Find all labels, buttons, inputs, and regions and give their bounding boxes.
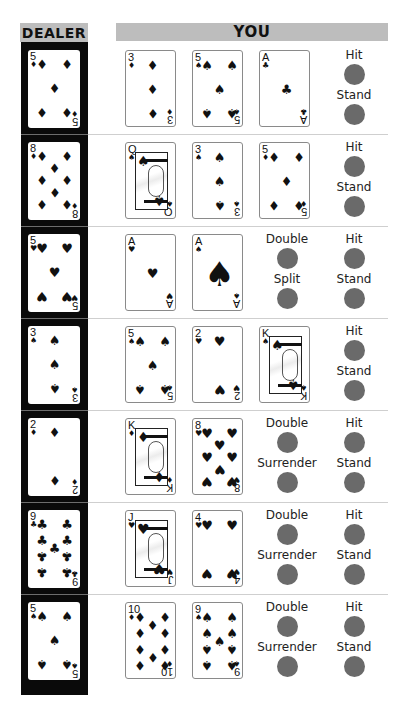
spades-icon: ♠	[159, 335, 172, 348]
row-divider	[21, 318, 388, 319]
hearts-icon: ♥	[48, 266, 61, 279]
surrender-button[interactable]	[277, 564, 298, 585]
player-card: 5♠5♠♠♠♠♠♠	[125, 326, 176, 403]
surrender-button[interactable]	[277, 472, 298, 493]
row-divider-dealer	[21, 318, 88, 319]
double-button[interactable]	[277, 248, 298, 269]
spades-icon: ♠	[226, 611, 239, 624]
double-button[interactable]	[277, 616, 298, 637]
action-surrender: Surrender	[252, 548, 322, 585]
stand-button[interactable]	[344, 196, 365, 217]
diamonds-icon: ♦	[61, 174, 74, 187]
action-hit: Hit	[319, 600, 389, 637]
diamonds-icon: ♦	[159, 643, 172, 656]
hit-button[interactable]	[344, 432, 365, 453]
surrender-label: Surrender	[252, 456, 322, 470]
stand-label: Stand	[319, 88, 389, 102]
card-pips: ♠♠♠	[36, 330, 73, 399]
hearts-icon: ♥	[201, 451, 214, 464]
hit-button[interactable]	[344, 524, 365, 545]
hearts-icon: ♥	[36, 290, 49, 303]
hearts-icon: ♥	[146, 267, 159, 280]
stand-button[interactable]	[344, 104, 365, 125]
spades-icon: ♠	[201, 643, 214, 656]
player-card: 3♠3♠♠♠♠	[192, 142, 243, 219]
hit-label: Hit	[319, 416, 389, 430]
clubs-icon: ♣	[36, 566, 49, 579]
double-button[interactable]	[277, 432, 298, 453]
hit-label: Hit	[319, 232, 389, 246]
diamonds-icon: ♦	[146, 83, 159, 96]
hearts-icon: ♥	[226, 451, 239, 464]
spades-icon: ♠	[201, 59, 214, 72]
hit-label: Hit	[319, 140, 389, 154]
stand-button[interactable]	[344, 380, 365, 401]
row-divider-dealer	[21, 410, 88, 411]
player-card: A♠A♠♠	[192, 234, 243, 311]
split-button[interactable]	[277, 288, 298, 309]
dealer-card: 9♣9♣♣♣♣♣♣♣♣♣♣	[28, 510, 80, 588]
card-pips: ♠♠♠♠♠	[36, 606, 73, 675]
player-card: J♥J♥♥♥	[125, 510, 176, 587]
clubs-icon: ♣	[61, 550, 74, 563]
hand-row: 2♦2♦♦♦K♦K♦♦♦8♥8♥♥♥♥♥♥♥♥♥DoubleSurrenderH…	[0, 410, 409, 502]
diamonds-icon: ♦	[268, 151, 281, 164]
diamonds-icon: ♦	[146, 59, 159, 72]
row-divider-dealer	[21, 226, 88, 227]
stand-button[interactable]	[344, 564, 365, 585]
spades-icon: ♠	[226, 659, 239, 672]
double-button[interactable]	[277, 524, 298, 545]
double-label: Double	[252, 600, 322, 614]
hit-button[interactable]	[344, 248, 365, 269]
card-pips: ♠	[201, 239, 238, 308]
hit-button[interactable]	[344, 64, 365, 85]
player-card: 9♠9♠♠♠♠♠♠♠♠♠♠	[192, 602, 243, 679]
hit-button[interactable]	[344, 156, 365, 177]
spades-icon: ♠	[61, 658, 74, 671]
player-card: K♠K♠♠♠	[259, 326, 310, 403]
diamonds-icon: ♦	[146, 619, 159, 632]
stand-button[interactable]	[344, 656, 365, 677]
spades-icon: ♠	[146, 359, 159, 372]
spades-icon: ♠	[201, 611, 214, 624]
clubs-icon: ♣	[36, 550, 49, 563]
face-card-artwork: ♥♥	[135, 520, 168, 578]
hit-button[interactable]	[344, 340, 365, 361]
player-card: 4♥4♥♥♥♥♥	[192, 510, 243, 587]
spades-icon: ♠	[61, 610, 74, 623]
action-hit: Hit	[319, 508, 389, 545]
hit-label: Hit	[319, 48, 389, 62]
diamonds-icon: ♦	[61, 58, 74, 71]
spades-icon: ♠	[287, 378, 300, 392]
action-stand: Stand	[319, 456, 389, 493]
spades-icon: ♠	[226, 643, 239, 656]
action-stand: Stand	[319, 640, 389, 677]
action-stand: Stand	[319, 180, 389, 217]
spades-icon: ♠	[134, 383, 147, 396]
surrender-button[interactable]	[277, 656, 298, 677]
action-hit: Hit	[319, 416, 389, 453]
action-stand: Stand	[319, 364, 389, 401]
card-pips: ♥♥	[201, 331, 238, 400]
player-card: Q♠Q♠♠♠	[125, 142, 176, 219]
split-label: Split	[252, 272, 322, 286]
action-surrender: Surrender	[252, 456, 322, 493]
action-split: Split	[252, 272, 322, 309]
card-pips: ♠♠♠♠♠	[134, 331, 171, 400]
player-card: 10♦10♦♦♦♦♦♦♦♦♦♦♦	[125, 602, 176, 679]
stand-button[interactable]	[344, 472, 365, 493]
stand-label: Stand	[319, 180, 389, 194]
diamonds-icon: ♦	[268, 199, 281, 212]
card-pips: ♦♦	[36, 422, 73, 491]
hand-row: 8♦8♦♦♦♦♦♦♦♦♦Q♠Q♠♠♠3♠3♠♠♠♠5♦5♦♦♦♦♦♦HitSta…	[0, 134, 409, 226]
hit-button[interactable]	[344, 616, 365, 637]
diamonds-icon: ♦	[134, 611, 147, 624]
dealer-card: 2♦2♦♦♦	[28, 418, 80, 496]
player-card: 5♦5♦♦♦♦♦♦	[259, 142, 310, 219]
player-card: A♣A♣♣	[259, 50, 310, 127]
row-divider	[21, 134, 388, 135]
stand-button[interactable]	[344, 288, 365, 309]
double-label: Double	[252, 508, 322, 522]
hand-row: 3♠3♠♠♠♠5♠5♠♠♠♠♠♠2♥2♥♥♥K♠K♠♠♠HitStand	[0, 318, 409, 410]
card-pips: ♣	[268, 55, 305, 124]
